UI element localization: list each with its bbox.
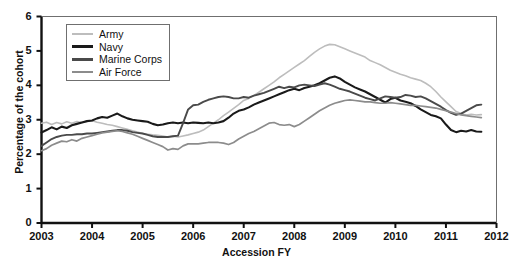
legend-swatch-air-force bbox=[72, 71, 93, 73]
legend-label-navy: Navy bbox=[99, 41, 123, 53]
legend-label-army: Army bbox=[99, 28, 124, 40]
x-tick-label: 2012 bbox=[477, 230, 513, 242]
legend-item-navy: Navy bbox=[72, 41, 165, 54]
y-tick-label: 3 bbox=[8, 113, 32, 125]
series-line-marine-corps bbox=[42, 83, 482, 146]
legend-label-marine-corps: Marine Corps bbox=[99, 53, 162, 65]
legend-item-marine-corps: Marine Corps bbox=[72, 53, 165, 66]
legend-swatch-army bbox=[72, 33, 93, 35]
y-tick-label: 5 bbox=[8, 44, 32, 56]
x-tick-label: 2010 bbox=[375, 230, 415, 242]
x-tick-label: 2003 bbox=[22, 230, 62, 242]
legend-item-air-force: Air Force bbox=[72, 66, 165, 79]
legend-item-army: Army bbox=[72, 28, 165, 41]
x-tick-label: 2004 bbox=[72, 230, 112, 242]
x-tick-label: 2008 bbox=[274, 230, 314, 242]
x-tick-label: 2009 bbox=[325, 230, 365, 242]
chart-figure: Percentage of the cohort Accession FY 01… bbox=[0, 0, 513, 264]
y-tick-label: 2 bbox=[8, 147, 32, 159]
x-tick-label: 2005 bbox=[123, 230, 163, 242]
x-axis-title: Accession FY bbox=[0, 246, 513, 258]
x-tick-label: 2007 bbox=[224, 230, 264, 242]
x-tick-label: 2011 bbox=[426, 230, 466, 242]
y-tick-label: 4 bbox=[8, 78, 32, 90]
legend-swatch-marine-corps bbox=[72, 58, 93, 61]
legend-label-air-force: Air Force bbox=[99, 66, 142, 78]
chart-legend: Army Navy Marine Corps Air Force bbox=[66, 24, 170, 81]
y-tick-label: 1 bbox=[8, 182, 32, 194]
y-tick-label: 6 bbox=[8, 10, 32, 22]
y-tick-label: 0 bbox=[8, 216, 32, 228]
legend-swatch-navy bbox=[72, 45, 93, 48]
x-tick-label: 2006 bbox=[173, 230, 213, 242]
